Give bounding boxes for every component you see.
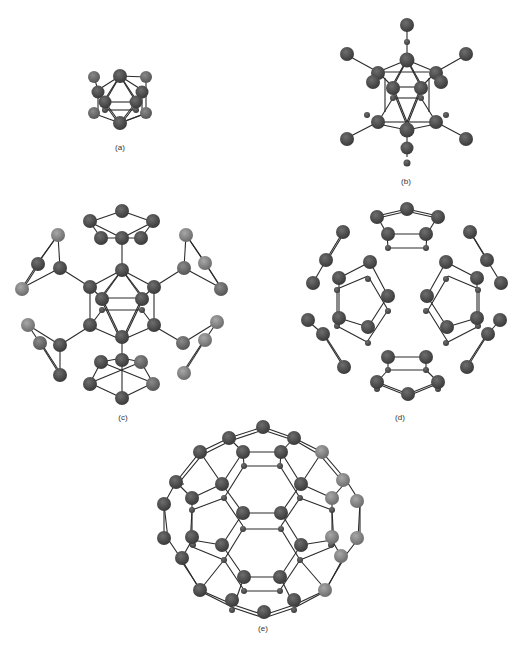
atom	[83, 318, 97, 332]
panel-c-label: (c)	[118, 413, 128, 422]
atom	[99, 96, 112, 109]
atom	[135, 292, 149, 306]
atom	[386, 81, 400, 95]
atom	[334, 549, 348, 563]
atom	[297, 495, 303, 501]
atom	[350, 494, 364, 508]
atom	[210, 315, 224, 329]
atom	[480, 253, 494, 267]
atom	[434, 75, 448, 89]
atom	[329, 507, 335, 513]
atom	[325, 530, 339, 544]
atom	[53, 338, 67, 352]
atom	[134, 355, 148, 369]
atom	[193, 583, 207, 597]
atom	[257, 605, 271, 619]
atom	[365, 276, 371, 282]
atom	[185, 491, 199, 505]
atom	[381, 289, 395, 303]
atom	[334, 287, 340, 293]
atom	[297, 557, 303, 563]
atom	[83, 214, 97, 228]
atom	[215, 538, 229, 552]
atom	[336, 473, 350, 487]
atom	[400, 123, 415, 138]
atom	[177, 261, 191, 275]
panel-d-label: (d)	[395, 413, 405, 422]
figure-canvas: (a)	[0, 0, 528, 646]
atom	[400, 18, 414, 32]
atom	[404, 160, 411, 167]
atom	[494, 276, 508, 290]
atom	[169, 475, 183, 489]
atom	[237, 570, 251, 584]
atom	[318, 583, 332, 597]
panel-c-core-with-pentagons	[15, 204, 228, 405]
atom	[51, 228, 65, 242]
atom	[221, 495, 227, 501]
atom	[366, 75, 380, 89]
atom	[400, 202, 414, 216]
atom	[287, 431, 301, 445]
atom	[470, 311, 484, 325]
atom	[15, 282, 29, 296]
atom	[33, 336, 47, 350]
atom	[419, 350, 433, 364]
atom	[301, 313, 315, 327]
atom	[157, 497, 171, 511]
panel-b-substituted-icosahedron	[340, 18, 473, 167]
atom	[176, 336, 190, 350]
atom	[443, 112, 449, 118]
atom	[361, 320, 375, 334]
atom	[177, 366, 191, 380]
atom	[99, 307, 105, 313]
atom	[332, 311, 346, 325]
atom	[140, 107, 152, 119]
atom	[140, 71, 152, 83]
atom	[336, 225, 350, 239]
atom	[315, 445, 329, 459]
atom	[463, 225, 477, 239]
atom	[319, 253, 333, 267]
atom	[21, 318, 35, 332]
atom	[198, 333, 212, 347]
atom	[419, 227, 433, 241]
panel-a-icosahedron	[88, 69, 152, 130]
atom	[83, 377, 97, 391]
panel-b-label: (b)	[401, 177, 411, 186]
atom	[236, 506, 250, 520]
atom	[31, 257, 45, 271]
atom	[340, 132, 354, 146]
atom	[459, 47, 473, 61]
atom	[189, 507, 195, 513]
atom	[385, 308, 391, 314]
atom	[431, 210, 445, 224]
atom	[115, 204, 129, 218]
atom	[390, 95, 396, 101]
atom	[179, 228, 193, 242]
panel-a-label: (a)	[115, 143, 125, 152]
atom	[53, 261, 67, 275]
atom	[316, 327, 330, 341]
atom	[88, 107, 100, 119]
atom	[443, 276, 449, 282]
atom	[459, 132, 473, 146]
atom	[277, 463, 283, 469]
atom	[53, 368, 67, 382]
atom	[115, 353, 129, 367]
atom	[363, 255, 377, 269]
atom	[404, 39, 410, 45]
atom	[221, 557, 227, 563]
atom	[423, 367, 429, 373]
atom	[146, 377, 160, 391]
atom	[95, 292, 109, 306]
atom	[88, 71, 100, 83]
atom	[225, 593, 239, 607]
atom	[185, 530, 199, 544]
atom	[291, 607, 297, 613]
atom	[115, 263, 129, 277]
atom	[236, 445, 250, 459]
atom	[294, 477, 308, 491]
atom	[274, 445, 288, 459]
atom	[83, 280, 97, 294]
